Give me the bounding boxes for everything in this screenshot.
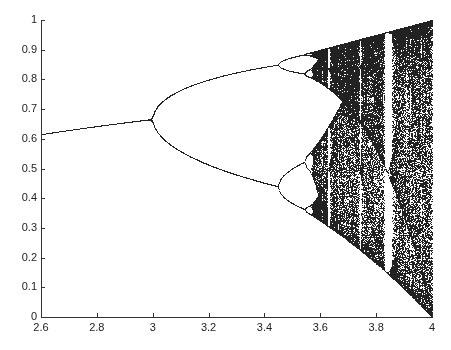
y-tick-label: 0.6 (3, 133, 37, 144)
y-tick-label: 0.7 (3, 103, 37, 114)
y-tick-label: 1 (3, 14, 37, 25)
y-tick-label: 0.2 (3, 252, 37, 263)
x-tick-label: 3.8 (361, 322, 391, 333)
y-tick-label: 0.1 (3, 281, 37, 292)
y-tick-label: 0.3 (3, 222, 37, 233)
x-tick-label: 2.6 (26, 322, 56, 333)
x-tick-label: 3.2 (194, 322, 224, 333)
y-tick-label: 0.9 (3, 44, 37, 55)
y-tick-label: 0 (3, 311, 37, 322)
y-tick-label: 0.8 (3, 73, 37, 84)
x-tick-label: 4 (417, 322, 447, 333)
y-tick-label: 0.5 (3, 163, 37, 174)
x-tick-label: 3.6 (305, 322, 335, 333)
bifurcation-plot (0, 0, 451, 350)
x-tick-label: 3.4 (249, 322, 279, 333)
x-tick-label: 2.8 (82, 322, 112, 333)
x-tick-label: 3 (138, 322, 168, 333)
y-tick-label: 0.4 (3, 192, 37, 203)
